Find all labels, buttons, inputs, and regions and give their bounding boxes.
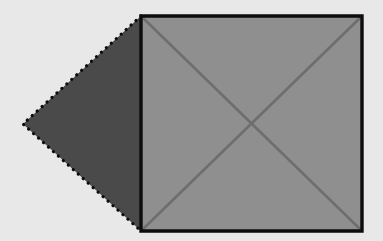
figure-canvas (0, 0, 383, 241)
figure-svg (0, 0, 383, 241)
